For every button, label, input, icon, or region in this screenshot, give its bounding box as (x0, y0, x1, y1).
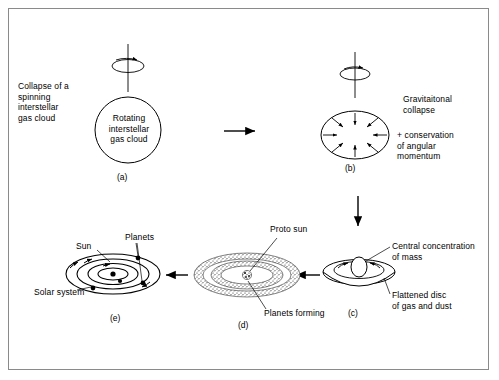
panel-d-label-planets-forming: Planets forming (264, 308, 325, 319)
panel-b-caption2: + conservation of angular momentum (397, 130, 481, 162)
panel-e-planet (141, 281, 146, 286)
panel-e-label-solar-system: Solar system (34, 287, 84, 298)
panel-d-protoplanetary-disc (194, 238, 300, 309)
panel-c-letter: (c) (348, 308, 358, 318)
panel-c-label-central-mass: Central concentration of mass (392, 241, 492, 262)
diagram-stage: Collapse of a spinning interstellar gas … (0, 0, 499, 380)
panel-e-planet (118, 279, 122, 283)
panel-a-spin-symbol (112, 44, 144, 92)
panel-b-caption: Gravitaitonal collapse (403, 94, 483, 115)
diagram-vector-layer (0, 0, 499, 380)
panel-d-label-proto-sun: Proto sun (270, 224, 307, 235)
panel-e-planet (136, 256, 141, 261)
panel-a-letter: (a) (117, 172, 127, 182)
panel-d-letter: (d) (238, 320, 248, 330)
panel-d-proto-sun (242, 270, 251, 279)
panel-b-spin-symbol (340, 52, 370, 98)
panel-a-body-text: Rotating interstellar gas cloud (104, 113, 154, 145)
panel-e-label-planets: Planets (125, 232, 154, 243)
panel-e-planet (91, 286, 96, 291)
panel-e-label-sun: Sun (76, 241, 91, 252)
panel-c-central-mass (351, 257, 367, 277)
panel-e-sun (110, 271, 115, 276)
panel-c-flattened-disc (323, 247, 395, 294)
panel-b-letter: (b) (345, 163, 355, 173)
panel-b-collapsing-cloud (321, 111, 389, 159)
panel-c-label-flattened-disc: Flattened disc of gas and dust (392, 290, 484, 311)
panel-e-letter: (e) (110, 313, 120, 323)
panel-a-caption: Collapse of a spinning interstellar gas … (18, 81, 90, 123)
